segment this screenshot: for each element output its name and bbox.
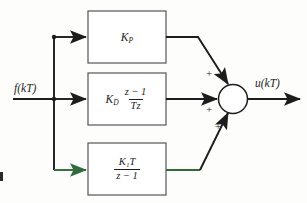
page-edge-artifact: [0, 172, 3, 181]
transfer-fraction-integral: K₁T z − 1: [114, 156, 140, 182]
output-signal-label: u(kT): [255, 78, 280, 90]
block-label-proportional: KP: [88, 11, 166, 63]
block-label-integral: K₁T z − 1: [88, 143, 166, 195]
input-signal-label: f(kT): [14, 83, 36, 95]
sign-plus-integral: +: [215, 121, 221, 132]
block-label-derivative: KD z − 1 Tz: [88, 73, 166, 125]
gain-symbol-proportional: KP: [121, 31, 133, 43]
block-diagram-figure: f(kT) u(kT) + + + KP KD z − 1 Tz K₁T z −…: [0, 0, 307, 203]
junction-dot-input: [52, 97, 56, 101]
transfer-fraction-derivative: z − 1 Tz: [123, 86, 149, 112]
fraction-numerator-derivative: z − 1: [123, 86, 149, 98]
fraction-denominator-integral: z − 1: [114, 169, 140, 182]
gain-symbol-derivative: KD: [106, 93, 119, 105]
fraction-numerator-integral: K₁T: [117, 156, 138, 168]
sign-plus-derivative: +: [206, 104, 212, 115]
summing-junction: [219, 85, 248, 114]
sign-plus-proportional: +: [206, 68, 212, 79]
fraction-denominator-derivative: Tz: [129, 99, 143, 112]
output-path-integral-diagonal: [200, 113, 228, 170]
output-path-proportional: [166, 37, 228, 84]
junction-dot-proportional: [52, 35, 56, 39]
